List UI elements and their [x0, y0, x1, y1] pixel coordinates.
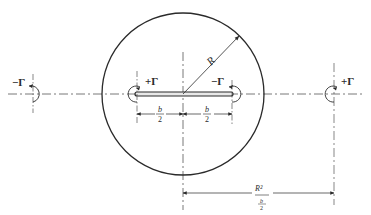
vortex-plate-right: −Γ [211, 75, 241, 124]
vortex-image-diagram: R −Γ +Γ −Γ +Γ b 2 b 2 [0, 0, 371, 215]
image-distance-den-denominator: 2 [260, 205, 263, 211]
half-span-left-denominator: 2 [158, 115, 162, 124]
vortex-plate-right-label: −Γ [211, 75, 224, 87]
vortex-far-left-label: −Γ [12, 76, 25, 88]
half-span-left-numerator: b [158, 105, 162, 114]
vortex-plate-left: +Γ [128, 71, 158, 124]
vortex-far-right: +Γ [325, 63, 354, 205]
image-distance-den-numerator: b [260, 198, 263, 204]
vortex-far-left: −Γ [12, 74, 39, 113]
image-distance-dimension: R² b 2 [183, 184, 334, 211]
half-span-right-denominator: 2 [205, 115, 209, 124]
half-span-dimension: b 2 b 2 [137, 105, 232, 124]
image-distance-numerator: R² [254, 184, 263, 193]
radius-label: R [203, 54, 217, 68]
vortex-far-right-label: +Γ [341, 75, 354, 87]
half-span-right-numerator: b [205, 105, 209, 114]
vortex-plate-left-label: +Γ [145, 75, 158, 87]
